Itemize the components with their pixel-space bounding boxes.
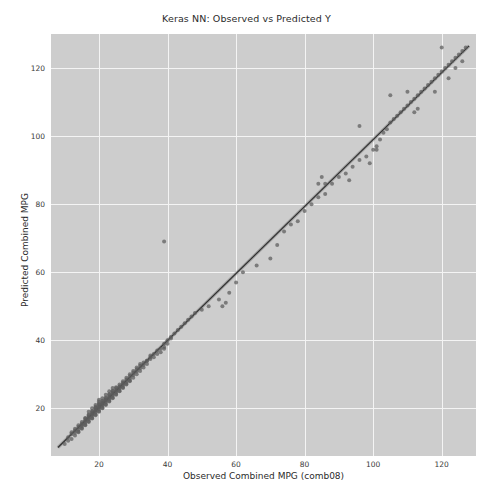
scatter-point bbox=[186, 318, 190, 322]
scatter-point bbox=[368, 161, 372, 165]
scatter-point bbox=[227, 291, 231, 295]
scatter-point bbox=[100, 406, 104, 410]
scatter-point bbox=[131, 369, 135, 373]
scatter-point bbox=[135, 366, 139, 370]
scatter-point bbox=[275, 243, 279, 247]
scatter-point bbox=[241, 270, 245, 274]
scatter-point bbox=[66, 439, 70, 443]
scatter-point bbox=[162, 347, 166, 351]
scatter-point bbox=[409, 100, 413, 104]
scatter-point bbox=[351, 165, 355, 169]
scatter-point bbox=[87, 410, 91, 414]
scatter-point bbox=[392, 117, 396, 121]
scatter-point bbox=[100, 401, 104, 405]
scatter-point bbox=[447, 76, 451, 80]
scatter-point bbox=[399, 110, 403, 114]
scatter-points-layer bbox=[51, 34, 476, 456]
x-tick-label: 100 bbox=[366, 460, 380, 469]
scatter-point bbox=[316, 195, 320, 199]
x-tick-label: 40 bbox=[163, 460, 173, 469]
scatter-point bbox=[440, 46, 444, 50]
scatter-point bbox=[169, 335, 173, 339]
scatter-point bbox=[159, 347, 163, 351]
scatter-point bbox=[114, 385, 118, 389]
scatter-point bbox=[142, 360, 146, 364]
scatter-point bbox=[457, 52, 461, 56]
scatter-point bbox=[87, 419, 91, 423]
scatter-point bbox=[303, 209, 307, 213]
scatter-point bbox=[347, 178, 351, 182]
scatter-point bbox=[357, 124, 361, 128]
scatter-point bbox=[440, 69, 444, 73]
scatter-point bbox=[176, 328, 180, 332]
scatter-point bbox=[385, 127, 389, 131]
scatter-point bbox=[114, 389, 118, 393]
scatter-point bbox=[76, 430, 80, 434]
scatter-point bbox=[159, 350, 163, 354]
scatter-point bbox=[419, 90, 423, 94]
scatter-point bbox=[124, 382, 128, 386]
scatter-point bbox=[118, 389, 122, 393]
scatter-point bbox=[76, 423, 80, 427]
scatter-point bbox=[166, 338, 170, 342]
y-axis-label: Predicted Combined MPG bbox=[20, 140, 30, 360]
scatter-point bbox=[83, 416, 87, 420]
scatter-point bbox=[443, 66, 447, 70]
scatter-point bbox=[436, 73, 440, 77]
scatter-point bbox=[375, 144, 379, 148]
scatter-point bbox=[179, 325, 183, 329]
scatter-point bbox=[405, 103, 409, 107]
scatter-point bbox=[412, 110, 416, 114]
scatter-point bbox=[90, 406, 94, 410]
scatter-point bbox=[148, 354, 152, 358]
x-tick-label: 20 bbox=[94, 460, 104, 469]
scatter-point bbox=[375, 148, 379, 152]
plot-area bbox=[51, 34, 476, 456]
scatter-point bbox=[460, 59, 464, 63]
scatter-point bbox=[111, 386, 115, 390]
scatter-point bbox=[433, 90, 437, 94]
scatter-point bbox=[412, 97, 416, 101]
scatter-point bbox=[90, 411, 94, 415]
scatter-point bbox=[152, 352, 156, 356]
scatter-point bbox=[73, 427, 77, 431]
scatter-point bbox=[344, 172, 348, 176]
scatter-point bbox=[464, 46, 468, 50]
scatter-point bbox=[224, 301, 228, 305]
scatter-point bbox=[97, 398, 101, 402]
scatter-point bbox=[316, 182, 320, 186]
scatter-point bbox=[107, 399, 111, 403]
scatter-point bbox=[152, 355, 156, 359]
scatter-point bbox=[320, 175, 324, 179]
scatter-point bbox=[118, 385, 122, 389]
scatter-point bbox=[207, 304, 211, 308]
scatter-point bbox=[190, 314, 194, 318]
scatter-point bbox=[426, 83, 430, 87]
scatter-point bbox=[66, 435, 70, 439]
chart-figure: Keras NN: Observed vs Predicted Y 204060… bbox=[0, 0, 493, 501]
scatter-point bbox=[183, 321, 187, 325]
scatter-point bbox=[453, 56, 457, 60]
scatter-point bbox=[97, 409, 101, 413]
scatter-point bbox=[381, 131, 385, 135]
scatter-point bbox=[94, 412, 98, 416]
scatter-point bbox=[416, 93, 420, 97]
scatter-point bbox=[323, 182, 327, 186]
scatter-point bbox=[94, 408, 98, 412]
scatter-point bbox=[364, 155, 368, 159]
scatter-point bbox=[148, 357, 152, 361]
scatter-point bbox=[323, 192, 327, 196]
scatter-point bbox=[429, 80, 433, 84]
scatter-point bbox=[296, 219, 300, 223]
scatter-point bbox=[405, 90, 409, 94]
scatter-point bbox=[217, 297, 221, 301]
scatter-point bbox=[255, 263, 259, 267]
scatter-point bbox=[162, 342, 166, 346]
scatter-point bbox=[371, 148, 375, 152]
scatter-point bbox=[402, 107, 406, 111]
scatter-point bbox=[378, 138, 382, 142]
scatter-point bbox=[162, 240, 166, 244]
y-tick-label: 20 bbox=[5, 404, 45, 413]
y-tick-label: 120 bbox=[5, 64, 45, 73]
scatter-point bbox=[138, 362, 142, 366]
